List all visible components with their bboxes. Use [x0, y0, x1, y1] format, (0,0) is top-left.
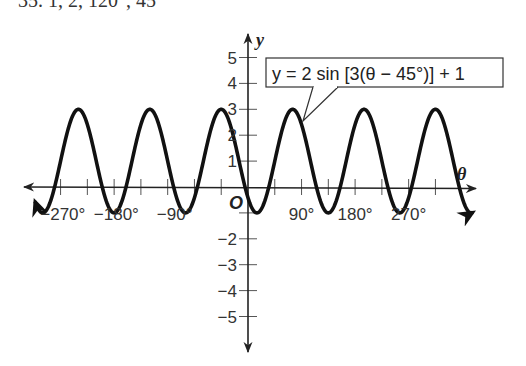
- x-tick-label: −270°: [40, 205, 85, 224]
- x-tick-label: 90°: [289, 205, 315, 224]
- x-tick-label: −180°: [94, 205, 139, 224]
- y-tick-label: −5: [218, 308, 237, 327]
- y-tick-label: −3: [218, 256, 237, 275]
- x-tick-label: −90°: [157, 205, 193, 224]
- x-tick-label: 270°: [391, 205, 426, 224]
- y-tick-label: 2: [228, 126, 237, 145]
- y-tick-label: 4: [228, 74, 237, 93]
- y-axis-label: y: [254, 30, 265, 50]
- y-tick-label: 3: [228, 100, 237, 119]
- x-axis-label: θ: [457, 164, 467, 184]
- y-tick-label: 1: [228, 152, 237, 171]
- y-tick-label: 5: [228, 49, 237, 68]
- equation-label: y = 2 sin [3(θ − 45°)] + 1: [272, 64, 465, 84]
- origin-label: O: [229, 193, 243, 213]
- sine-graph: −270°−180°−90°90°180°270° 54321−2−3−4−5 …: [0, 0, 526, 366]
- y-tick-label: −2: [218, 230, 237, 249]
- x-tick-label: 180°: [338, 205, 373, 224]
- y-tick-label: −4: [218, 282, 237, 301]
- equation-callout: y = 2 sin [3(θ − 45°)] + 1: [266, 58, 503, 121]
